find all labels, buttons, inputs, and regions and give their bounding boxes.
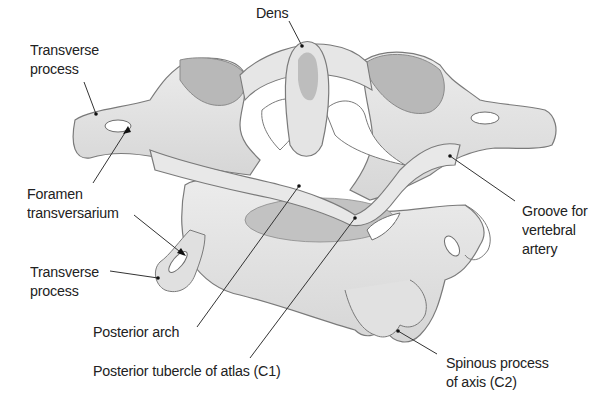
label-spinous-process: Spinous process of axis (C2) [446,353,549,391]
label-groove-vertebral-artery: Groove for vertebral artery [522,201,588,258]
vertebrae-diagram: Dens Transverse process Foramen transver… [0,0,595,407]
label-transverse-process-upper: Transverse process [30,40,99,78]
label-posterior-tubercle: Posterior tubercle of atlas (C1) [93,361,280,380]
label-posterior-arch: Posterior arch [93,322,179,341]
label-foramen-transversarium: Foramen transversarium [27,184,119,222]
label-transverse-process-lower: Transverse process [30,262,99,300]
dens [285,42,328,157]
label-dens: Dens [256,3,289,22]
